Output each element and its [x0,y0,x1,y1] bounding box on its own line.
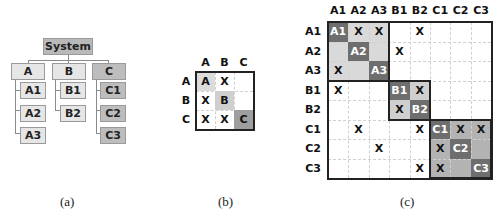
row-header: A1 [302,22,324,42]
node-b1: B1 [60,82,86,99]
column-header: C2 [450,2,470,18]
row-header: C1 [302,120,324,140]
node-b2: B2 [60,105,86,122]
row-header: B1 [302,81,324,101]
row-header: A [179,72,193,91]
row-header: B [179,91,193,110]
block-c-border [429,119,492,180]
node-c: C [92,63,126,80]
column-header: B [215,54,234,70]
row-header: C3 [302,159,324,179]
node-b: B [52,63,86,80]
caption-c: (c) [400,194,414,210]
node-a: A [11,63,45,80]
block-b-border [388,80,431,121]
column-header: A3 [369,2,389,18]
column-header: A1 [328,2,348,18]
column-header: B1 [389,2,409,18]
node-system: System [43,38,93,55]
caption-a: (a) [60,194,74,210]
column-header: B2 [410,2,430,18]
node-a3: A3 [20,127,46,144]
caption-b: (b) [218,194,233,210]
connector [15,80,16,133]
row-header: C [179,110,193,129]
block-a-border [327,21,390,82]
node-c3: C3 [100,127,126,144]
node-a1: A1 [20,82,46,99]
node-a2: A2 [20,105,46,122]
connector [55,80,56,110]
column-header: A2 [348,2,368,18]
row-header: B2 [302,100,324,120]
matrix-border [195,71,255,131]
column-header: C3 [471,2,491,18]
column-header: A [196,54,215,70]
column-header: C1 [430,2,450,18]
connector [96,80,97,133]
column-header: C [234,54,253,70]
node-c2: C2 [100,105,126,122]
node-c1: C1 [100,82,126,99]
row-header: A3 [302,61,324,81]
row-header: C2 [302,139,324,159]
row-header: A2 [302,42,324,62]
